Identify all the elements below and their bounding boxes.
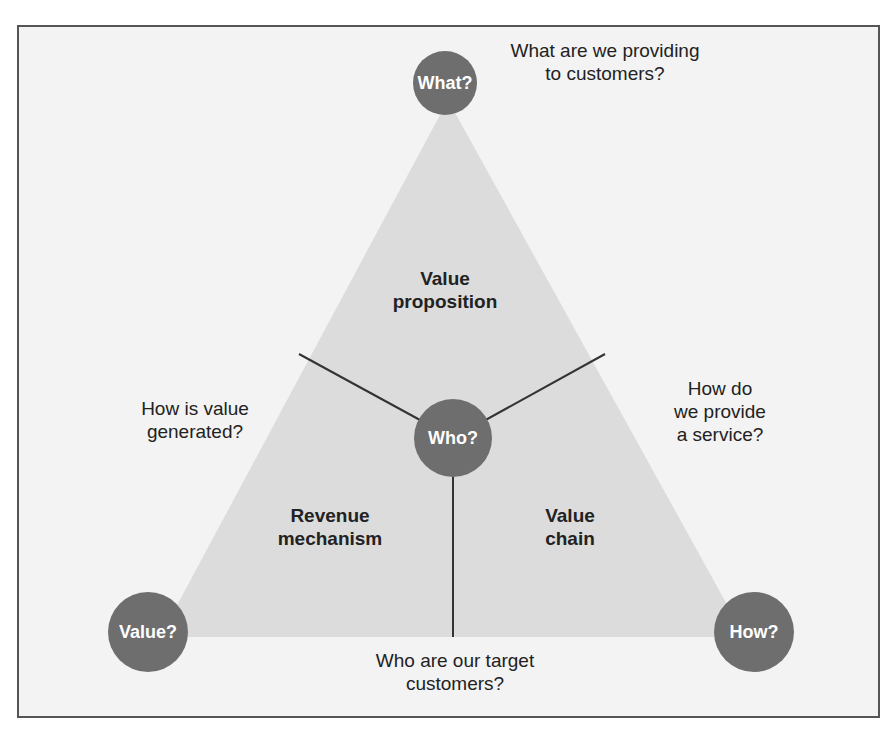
question-line: Who are our target [350, 650, 560, 673]
node-who-label: Who? [428, 428, 478, 449]
question-line: How is value [115, 398, 275, 421]
segment-line: mechanism [260, 528, 400, 551]
node-value-label: Value? [119, 622, 177, 643]
question-value: How is value generated? [115, 398, 275, 444]
node-what: What? [413, 51, 477, 115]
node-who: Who? [414, 399, 492, 477]
segment-line: Value [340, 268, 550, 291]
node-how-label: How? [730, 622, 779, 643]
segment-line: proposition [340, 291, 550, 314]
question-what: What are we providing to customers? [490, 40, 720, 86]
segment-line: Value [510, 505, 630, 528]
segment-line: chain [510, 528, 630, 551]
segment-line: Revenue [260, 505, 400, 528]
segment-value-proposition: Value proposition [340, 268, 550, 314]
question-how: How do we provide a service? [650, 378, 790, 446]
question-line: customers? [350, 673, 560, 696]
node-how: How? [714, 592, 794, 672]
question-line: What are we providing [490, 40, 720, 63]
segment-revenue-mechanism: Revenue mechanism [260, 505, 400, 551]
question-line: How do [650, 378, 790, 401]
question-line: a service? [650, 424, 790, 447]
segment-value-chain: Value chain [510, 505, 630, 551]
question-who: Who are our target customers? [350, 650, 560, 696]
node-value: Value? [108, 592, 188, 672]
question-line: we provide [650, 401, 790, 424]
node-what-label: What? [418, 73, 473, 94]
question-line: generated? [115, 421, 275, 444]
question-line: to customers? [490, 63, 720, 86]
